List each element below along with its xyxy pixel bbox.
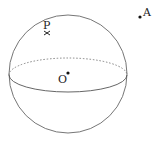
label-a: A (142, 6, 152, 19)
label-o: O (58, 73, 67, 86)
point-a (138, 15, 141, 18)
sphere-figure: O P A (0, 0, 158, 142)
label-p: P (43, 19, 51, 32)
equator-front (9, 75, 127, 92)
